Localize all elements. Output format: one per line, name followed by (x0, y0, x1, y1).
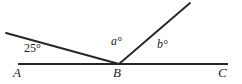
angle-label-b: b° (157, 38, 168, 50)
ray-segment-upper-right (119, 3, 190, 64)
ray-segment-upper-left (6, 33, 119, 64)
vertex-label-A: A (13, 66, 21, 79)
angle-label-25-degrees: 25° (24, 42, 41, 54)
vertex-label-B: B (113, 66, 121, 79)
vertex-label-C: C (218, 66, 227, 79)
angle-diagram-figure: 25° a° b° A B C (0, 0, 242, 84)
angle-label-a: a° (111, 35, 122, 47)
